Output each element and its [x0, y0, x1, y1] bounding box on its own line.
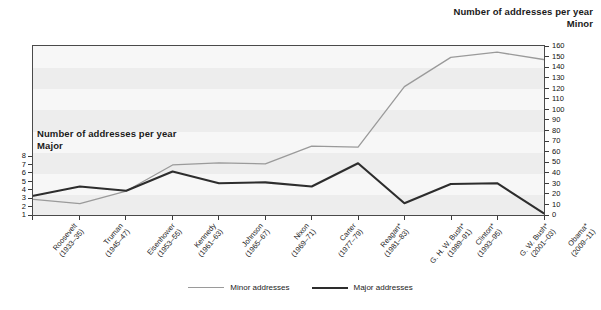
left-axis-tick: 8 — [22, 156, 32, 157]
right-axis-tick-mark — [545, 141, 549, 142]
left-axis-tick: 1 — [22, 215, 32, 216]
x-axis-tick-mark — [497, 216, 498, 220]
left-axis-tick-mark — [28, 198, 32, 199]
x-axis-label-name: Truman — [97, 222, 125, 253]
right-axis-tick-mark — [545, 151, 549, 152]
x-axis-label: Roosevelt(1933–35) — [51, 222, 86, 259]
right-axis-tick: 80 — [545, 130, 560, 131]
x-axis-tick-mark — [544, 216, 545, 220]
x-axis-label: Clinton*(1993–95) — [469, 222, 504, 259]
x-axis-label: Obama*(2009–11) — [562, 222, 596, 258]
x-axis-label: Carter(1977–79) — [330, 222, 365, 259]
left-axis-tick-mark — [28, 181, 32, 182]
right-axis-tick-label: 150 — [552, 53, 565, 61]
right-axis-tick-mark — [545, 56, 549, 57]
right-axis-tick: 160 — [545, 46, 565, 47]
x-axis-label-name: Eisenhower — [145, 222, 176, 257]
x-axis-label-name: Johnson — [237, 222, 265, 253]
left-axis-tick-label: 6 — [22, 169, 26, 177]
right-axis-tick-mark — [545, 130, 549, 131]
x-axis-label-years: (1981–83) — [383, 228, 411, 259]
right-axis-tick-label: 90 — [552, 116, 560, 124]
x-axis-label-name: Carter — [330, 222, 358, 253]
right-axis-tick-label: 130 — [552, 74, 565, 82]
right-axis-tick: 0 — [545, 215, 556, 216]
x-axis-label-name: G. H. W. Bush* — [429, 222, 468, 266]
x-axis-label-name: Obama* — [562, 222, 590, 253]
x-axis-tick-mark — [32, 216, 33, 220]
x-axis-tick-mark — [218, 216, 219, 220]
right-axis-tick: 40 — [545, 172, 560, 173]
x-axis-label-years: (1993–95) — [476, 228, 504, 259]
x-axis-label: Eisenhower(1953–55) — [145, 222, 183, 263]
right-axis-tick: 90 — [545, 119, 560, 120]
left-axis-tick-mark — [28, 156, 32, 157]
x-axis-label-years: (1961–63) — [197, 228, 225, 259]
right-axis-tick-mark — [545, 77, 549, 78]
left-axis-tick-mark — [28, 189, 32, 190]
legend-item-major: Major addresses — [312, 283, 413, 292]
chart-legend: Minor addresses Major addresses — [0, 283, 601, 292]
x-axis-label-name: Reagan* — [376, 222, 404, 253]
right-axis-tick-mark — [545, 109, 549, 110]
left-axis-tick-label: 8 — [22, 152, 26, 160]
right-axis-tick-mark — [545, 204, 549, 205]
x-axis-tick-mark — [358, 216, 359, 220]
x-axis-label-name: Nixon — [283, 222, 311, 253]
right-axis-tick-label: 30 — [552, 180, 560, 188]
right-axis-tick-label: 20 — [552, 190, 560, 198]
right-axis-tick: 70 — [545, 141, 560, 142]
chart-title-line1: Number of addresses per year — [453, 6, 593, 18]
right-axis-tick-mark — [545, 119, 549, 120]
right-axis-tick: 150 — [545, 56, 565, 57]
right-axis-tick-mark — [545, 172, 549, 173]
right-axis-tick-label: 160 — [552, 42, 565, 50]
x-axis-label: Johnson(1965–67) — [237, 222, 272, 259]
right-axis-tick: 30 — [545, 183, 560, 184]
left-axis-tick-label: 7 — [22, 161, 26, 169]
x-axis-label: Kennedy(1961–63) — [190, 222, 225, 259]
right-axis-tick-mark — [545, 193, 549, 194]
right-axis-tick-label: 10 — [552, 201, 560, 209]
left-axis-tick-label: 2 — [22, 203, 26, 211]
right-axis-tick-label: 40 — [552, 169, 560, 177]
x-axis-label-years: (1965–67) — [243, 228, 271, 259]
left-axis-tick-mark — [28, 172, 32, 173]
x-axis-label-years: (1933–35) — [57, 228, 85, 259]
left-axis-tick: 5 — [22, 181, 32, 182]
x-axis-label-years: (1969–71) — [290, 228, 318, 259]
x-axis-label-years: (2009–11) — [569, 228, 597, 259]
right-axis-tick: 120 — [545, 88, 565, 89]
chart-title-line2: Minor — [453, 18, 593, 30]
right-axis-tick: 130 — [545, 77, 565, 78]
legend-line-minor-icon — [188, 287, 224, 288]
x-axis-label-years: (1945–47) — [104, 228, 132, 259]
major-axis-caption: Number of addresses per year Major — [37, 128, 177, 152]
x-axis-label: G. W. Bush*(2001–03) — [518, 222, 557, 264]
major-caption-line2: Major — [37, 140, 177, 152]
x-axis-label-years: (2001–03) — [525, 228, 557, 264]
left-axis-tick-label: 3 — [22, 194, 26, 202]
right-axis-tick-mark — [545, 162, 549, 163]
x-axis-label-years: (1953–55) — [152, 228, 183, 263]
left-axis-tick-label: 4 — [22, 186, 26, 194]
x-axis-tick-mark — [172, 216, 173, 220]
x-axis-label: Truman(1945–47) — [97, 222, 132, 259]
right-axis-tick-label: 100 — [552, 106, 565, 114]
right-axis-tick-mark — [545, 215, 549, 216]
x-axis-tick-mark — [265, 216, 266, 220]
right-axis-tick-mark — [545, 88, 549, 89]
x-axis-tick-mark — [125, 216, 126, 220]
right-axis-tick: 110 — [545, 98, 564, 99]
left-axis: 12345678 — [0, 45, 32, 216]
left-axis-tick-mark — [28, 206, 32, 207]
x-axis-label-years: (1989–91) — [435, 228, 474, 272]
left-axis-tick: 4 — [22, 189, 32, 190]
x-axis-label: Nixon(1969–71) — [283, 222, 318, 259]
left-axis-tick: 2 — [22, 206, 32, 207]
x-axis-tick-mark — [311, 216, 312, 220]
x-axis-label: Reagan*(1981–83) — [376, 222, 411, 259]
x-axis-tick-mark — [404, 216, 405, 220]
chart-title: Number of addresses per year Minor — [453, 6, 593, 30]
chart-page: Number of addresses per year Minor Numbe… — [0, 0, 601, 310]
